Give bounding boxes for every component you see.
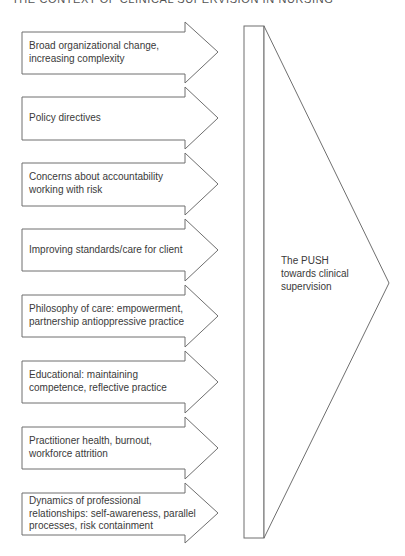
arrow-label-practitioner-health: Practitioner health, burnout, workforce …	[29, 435, 164, 460]
arrow-label-improving-standards: Improving standards/care for client	[29, 244, 189, 257]
push-arrow-label: The PUSH towards clinical supervision	[281, 254, 351, 293]
arrow-label-accountability: Concerns about accountability working wi…	[29, 171, 179, 196]
arrow-label-professional-relationships: Dynamics of professional relationships: …	[29, 495, 197, 533]
arrow-label-policy-directives: Policy directives	[29, 112, 189, 125]
push-arrow-shaft	[244, 26, 264, 538]
arrow-label-educational: Educational: maintaining competence, ref…	[29, 369, 169, 394]
arrow-label-organizational-change: Broad organizational change, increasing …	[29, 40, 169, 65]
arrow-label-philosophy-of-care: Philosophy of care: empowerment, partner…	[29, 303, 189, 328]
